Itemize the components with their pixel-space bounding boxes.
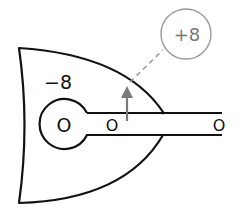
dashed-leader-line bbox=[130, 50, 163, 82]
diagram-canvas: −8 O O O +8 bbox=[0, 0, 241, 210]
head-charge-label: O bbox=[57, 114, 72, 136]
callout-charge-label: +8 bbox=[174, 24, 201, 45]
stem-near-charge-label: O bbox=[106, 116, 119, 135]
stem-end-charge-label: O bbox=[213, 116, 226, 135]
up-arrow-icon bbox=[121, 86, 133, 121]
stem-mask bbox=[150, 114, 170, 134]
body-charge-label: −8 bbox=[44, 71, 72, 93]
